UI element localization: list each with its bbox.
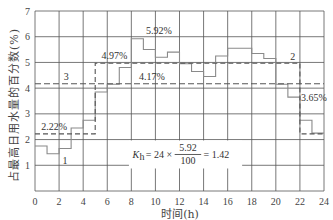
curve-label-3: 3 <box>64 71 69 82</box>
y-tick-label: 6 <box>25 31 30 42</box>
x-tick-label: 18 <box>247 196 257 207</box>
x-tick-label: 6 <box>105 196 110 207</box>
formula-numerator: 5.92 <box>179 142 197 153</box>
plot-area: 02468101214161820222412345675.92%4.97%4.… <box>0 0 333 220</box>
x-tick-label: 2 <box>57 196 62 207</box>
formula-eq: = 24 × <box>146 149 172 160</box>
x-tick-label: 8 <box>129 196 134 207</box>
annotation-4-97: 4.97% <box>102 50 128 61</box>
x-tick-label: 0 <box>33 196 38 207</box>
curve-label-1: 1 <box>63 155 68 166</box>
formula-k-subscript: h <box>140 151 145 162</box>
annotation-2-22: 2.22% <box>41 121 67 132</box>
y-tick-label: 7 <box>25 6 30 17</box>
annotation-3-65: 3.65% <box>301 92 327 103</box>
y-tick-label: 1 <box>25 160 30 171</box>
x-tick-label: 24 <box>319 196 329 207</box>
y-tick-label: 3 <box>25 108 30 119</box>
x-tick-label: 16 <box>223 196 233 207</box>
x-tick-label: 22 <box>295 196 305 207</box>
water-usage-chart: 02468101214161820222412345675.92%4.97%4.… <box>0 0 333 220</box>
x-tick-label: 4 <box>81 196 86 207</box>
annotation-5-92: 5.92% <box>146 25 172 36</box>
y-axis-label: 占最高日用水量的百分数(%) <box>5 20 21 190</box>
x-tick-label: 20 <box>271 196 281 207</box>
formula-result: = 1.42 <box>204 149 230 160</box>
y-tick-label: 4 <box>25 83 30 94</box>
curve-label-2: 2 <box>290 51 295 62</box>
annotation-4-17: 4.17% <box>139 71 165 82</box>
y-tick-label: 2 <box>25 134 30 145</box>
formula-denominator: 100 <box>180 155 195 166</box>
x-axis-label: 时间(h) <box>150 205 210 220</box>
y-tick-label: 5 <box>25 57 30 68</box>
